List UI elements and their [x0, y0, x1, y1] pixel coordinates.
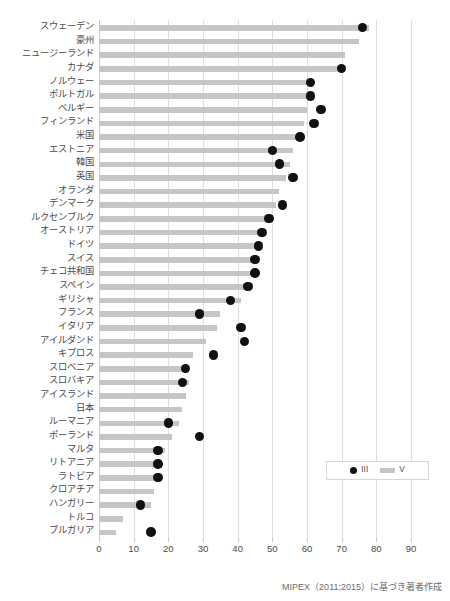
category-label: ルーマニア	[49, 415, 94, 429]
x-tick-mark	[99, 538, 100, 542]
chart-row: マルタ	[99, 443, 450, 457]
chart-row: クロアチア	[99, 483, 450, 497]
dot-iii	[254, 241, 263, 250]
chart-row: アイルダンド	[99, 334, 450, 348]
bar-v	[99, 393, 186, 399]
chart-row: ルーマニア	[99, 415, 450, 429]
dot-iii	[153, 459, 162, 468]
category-label: チェコ共和国	[40, 265, 94, 279]
bar-v	[99, 134, 297, 140]
chart-row: ノルウェー	[99, 75, 450, 89]
bar-v	[99, 325, 217, 331]
dot-iii	[226, 296, 235, 305]
category-label: ポーランド	[49, 429, 94, 443]
chart-row: チェコ共和国	[99, 265, 450, 279]
bar-v	[99, 216, 272, 222]
bar-v	[99, 175, 286, 181]
dot-iii	[209, 350, 218, 359]
category-label: ルクセンブルク	[31, 211, 94, 225]
chart-row: ニュージーランド	[99, 47, 450, 61]
dot-iii	[295, 132, 304, 141]
bar-v	[99, 489, 154, 495]
bar-v	[99, 461, 161, 467]
dot-iii	[268, 146, 277, 155]
x-tick-label: 90	[391, 543, 431, 554]
category-label: アイスランド	[40, 388, 94, 402]
x-tick-mark	[203, 538, 204, 542]
bar-v	[99, 80, 310, 86]
bar-v	[99, 257, 255, 263]
legend-item: III	[350, 466, 368, 474]
category-label: ベルギー	[58, 102, 94, 116]
legend-item: V	[380, 466, 404, 474]
chart-row: アイスランド	[99, 388, 450, 402]
bar-v	[99, 434, 172, 440]
chart-row: 韓国	[99, 156, 450, 170]
category-label: キプロス	[58, 347, 94, 361]
category-label: 英国	[76, 170, 94, 184]
chart-row: イタリア	[99, 320, 450, 334]
dot-iii	[257, 228, 266, 237]
category-label: ハンガリー	[49, 497, 94, 511]
dot-iii	[316, 105, 325, 114]
dot-iii	[195, 309, 204, 318]
bar-v	[99, 93, 310, 99]
bar-v	[99, 121, 304, 127]
chart-row: フランス	[99, 306, 450, 320]
chart-row: フィンランド	[99, 115, 450, 129]
chart-row: ルクセンブルク	[99, 211, 450, 225]
category-label: スペイン	[59, 279, 94, 293]
dot-iii	[250, 255, 259, 264]
category-label: ドイツ	[67, 238, 94, 252]
x-axis: 0102030405060708090	[99, 538, 411, 560]
bar-v	[99, 284, 245, 290]
bar-v	[99, 380, 189, 386]
category-label: フランス	[58, 306, 94, 320]
dot-iii	[153, 473, 162, 482]
category-label: エストニア	[49, 143, 94, 157]
x-tick-mark	[168, 538, 169, 542]
chart-row: オランダ	[99, 184, 450, 198]
x-tick-mark	[238, 538, 239, 542]
chart-row: デンマーク	[99, 197, 450, 211]
chart-title	[0, 0, 450, 7]
category-label: アイルダンド	[40, 334, 94, 348]
dot-iii	[275, 159, 284, 168]
x-tick-mark	[272, 538, 273, 542]
dot-iii	[236, 323, 245, 332]
bar-v	[99, 352, 193, 358]
chart-row: ベルギー	[99, 102, 450, 116]
x-tick-mark	[342, 538, 343, 542]
chart-row: ポーランド	[99, 429, 450, 443]
dot-iii	[306, 78, 315, 87]
x-tick-mark	[411, 538, 412, 542]
category-label: トルコ	[67, 511, 94, 525]
bar-v	[99, 407, 182, 413]
chart-row: 豪州	[99, 34, 450, 48]
chart-row: ポルトガル	[99, 88, 450, 102]
source-note: MIPEX（2011;2015）に基づき著者作成	[282, 580, 442, 593]
category-label: クロアチア	[49, 483, 94, 497]
bar-v	[99, 516, 123, 522]
bar-v	[99, 25, 369, 31]
legend-dot-icon	[350, 467, 357, 474]
bar-v	[99, 39, 359, 45]
legend-bar-icon	[380, 468, 395, 473]
category-label: スロバキア	[49, 374, 94, 388]
dot-iii	[306, 91, 315, 100]
chart-row: スロベニア	[99, 361, 450, 375]
category-label: ラトビア	[58, 470, 94, 484]
dot-iii	[164, 418, 173, 427]
category-label: 豪州	[76, 34, 94, 48]
chart-row: ドイツ	[99, 238, 450, 252]
dot-iii	[243, 282, 252, 291]
chart-row: エストニア	[99, 143, 450, 157]
legend-label: III	[361, 466, 368, 474]
chart-row: カナダ	[99, 61, 450, 75]
bar-v	[99, 366, 189, 372]
category-label: オーストリア	[40, 224, 94, 238]
x-tick-mark	[134, 538, 135, 542]
category-label: マルタ	[67, 443, 94, 457]
dot-iii	[358, 23, 367, 32]
bar-v	[99, 271, 252, 277]
